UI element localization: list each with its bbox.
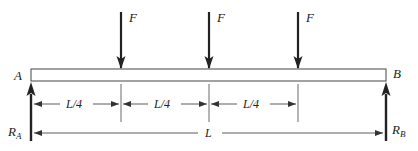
dimension-label-2: L/4 [153,97,170,111]
load-label-1: F [128,10,138,25]
load-arrow-3 [294,12,303,69]
dimension-label-total: L [204,126,212,140]
load-label-2: F [216,10,226,25]
load-arrow-2 [205,12,214,69]
reaction-label-a: RA [7,124,22,141]
load-label-3: F [305,10,315,25]
dimension-label-3: L/4 [242,97,259,111]
beam-diagram: F F F A B RA RB L/4 L/4 [0,0,418,151]
reaction-label-b: RB [391,122,406,139]
reaction-arrow-a [27,82,36,141]
end-label-b: B [393,66,401,81]
dimension-label-1: L/4 [65,97,82,111]
load-arrow-1 [117,12,126,69]
end-label-a: A [13,68,22,83]
beam [31,69,386,81]
reaction-arrow-b [382,82,391,141]
